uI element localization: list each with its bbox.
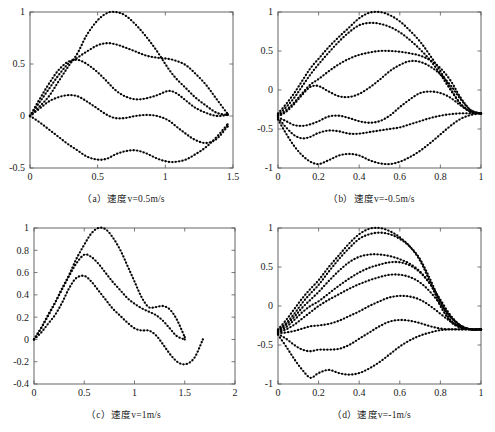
svg-text:0: 0 [28,171,33,182]
series-line [34,254,185,339]
series-markers-curve-4 [29,94,229,144]
series-markers-curve-2 [29,42,229,117]
series-line [278,320,481,351]
panel-c: 00.511.52-0.4-0.200.20.40.60.81 （c）速度v=1… [0,216,247,432]
svg-text:0.5: 0.5 [261,45,274,56]
series-line [30,95,228,143]
svg-text:0.5: 0.5 [91,171,104,182]
series-markers-curve-2 [33,254,186,341]
svg-text:0.2: 0.2 [17,312,30,323]
svg-text:2: 2 [233,387,238,398]
svg-text:1: 1 [20,6,25,17]
series-markers-curve-1 [277,11,482,115]
svg-text:0.6: 0.6 [17,267,30,278]
svg-text:0.6: 0.6 [394,171,407,182]
svg-text:-0.5: -0.5 [257,339,273,350]
series-line [278,329,481,377]
svg-text:0: 0 [20,110,25,121]
figure-four-panel-plot: 00.511.5-0.500.51 （a）速度v=0.5m/s 00.20.40… [0,0,495,432]
svg-text:0: 0 [276,387,281,398]
panel-d: 00.20.40.60.81-1-0.500.51 （d）速度v=-1m/s [248,216,495,432]
svg-text:1: 1 [24,222,29,233]
series-markers-curve-8 [277,328,482,379]
plot-area-b: 00.20.40.60.81-1-0.500.51 [248,0,495,190]
svg-text:-0.5: -0.5 [9,162,25,173]
svg-text:0.5: 0.5 [261,261,274,272]
svg-text:1.5: 1.5 [179,387,192,398]
svg-text:-1: -1 [265,378,273,389]
series-line [30,60,228,116]
svg-text:1: 1 [479,171,484,182]
svg-text:0.8: 0.8 [434,171,447,182]
plot-area-d: 00.20.40.60.81-1-0.500.51 [248,216,495,406]
svg-text:1: 1 [132,387,137,398]
svg-text:-0.5: -0.5 [257,123,273,134]
svg-text:0.5: 0.5 [78,387,91,398]
series-markers-curve-1 [33,227,186,341]
plot-area-c: 00.511.52-0.4-0.200.20.40.60.81 [0,216,247,406]
series-markers-curve-5 [29,115,229,163]
svg-text:0.6: 0.6 [394,387,407,398]
series-line [278,275,481,333]
svg-text:1: 1 [268,6,273,17]
plot-area-a: 00.511.5-0.500.51 [0,0,247,190]
svg-text:0.4: 0.4 [353,387,366,398]
svg-text:-1: -1 [265,162,273,173]
series-markers-curve-1 [29,11,229,117]
svg-text:0.4: 0.4 [17,289,30,300]
panel-c-caption: （c）速度v=1m/s [0,407,247,421]
series-line [278,51,481,116]
series-line [34,228,185,340]
svg-text:0: 0 [32,387,37,398]
panel-b-caption: （b）速度v=-0.5m/s [248,191,495,205]
svg-text:1: 1 [268,222,273,233]
svg-text:0: 0 [268,300,273,311]
svg-text:0.4: 0.4 [353,171,366,182]
series-markers-curve-3 [277,50,482,117]
series-markers-curve-2 [277,22,482,116]
svg-text:1.5: 1.5 [227,171,240,182]
svg-text:0: 0 [24,334,29,345]
panel-a-caption: （a）速度v=0.5m/s [0,191,247,205]
svg-text:0.5: 0.5 [13,58,26,69]
svg-text:0.8: 0.8 [434,387,447,398]
svg-text:-0.4: -0.4 [13,378,29,389]
series-markers-curve-5 [277,90,482,127]
svg-text:1: 1 [479,387,484,398]
panel-a: 00.511.5-0.500.51 （a）速度v=0.5m/s [0,0,247,216]
series-markers-curve-3 [29,59,229,118]
series-markers-curve-7 [277,319,482,353]
svg-text:0: 0 [276,171,281,182]
svg-text:0.8: 0.8 [17,245,30,256]
svg-text:0: 0 [268,84,273,95]
series-line [278,23,481,115]
svg-text:0.2: 0.2 [312,171,325,182]
svg-text:0.2: 0.2 [312,387,325,398]
panel-d-caption: （d）速度v=-1m/s [248,407,495,421]
svg-text:-0.2: -0.2 [13,356,29,367]
svg-text:1: 1 [163,171,168,182]
panel-b: 00.20.40.60.81-1-0.500.51 （b）速度v=-0.5m/s [248,0,495,216]
